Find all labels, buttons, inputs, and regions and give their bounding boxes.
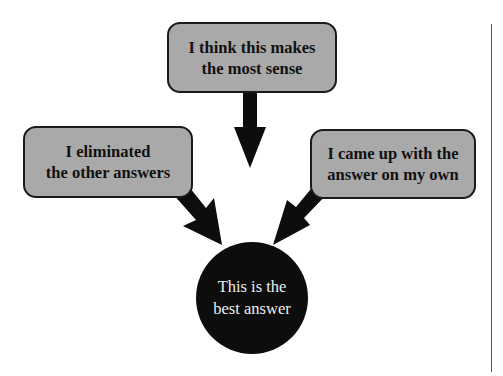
source-box-most-sense: I think this makes the most sense <box>167 22 337 93</box>
source-box-label-line2: the other answers <box>46 162 170 183</box>
target-label-line2: best answer <box>213 298 290 320</box>
source-box-label-line1: I came up with the <box>327 143 458 164</box>
source-box-label-line1: I eliminated <box>66 141 151 162</box>
source-box-label-line2: the most sense <box>202 58 303 79</box>
target-circle-best-answer: This is the best answer <box>196 242 308 354</box>
target-label-line1: This is the <box>218 276 287 298</box>
source-box-label-line2: answer on my own <box>327 164 458 185</box>
diagram-canvas: I think this makes the most sense I elim… <box>0 0 503 376</box>
source-box-eliminated: I eliminated the other answers <box>23 126 193 198</box>
source-box-own-answer: I came up with the answer on my own <box>310 129 476 199</box>
source-box-label-line1: I think this makes <box>189 37 316 58</box>
page-margin-rule <box>491 24 492 372</box>
arrow-top-to-target <box>234 92 266 168</box>
